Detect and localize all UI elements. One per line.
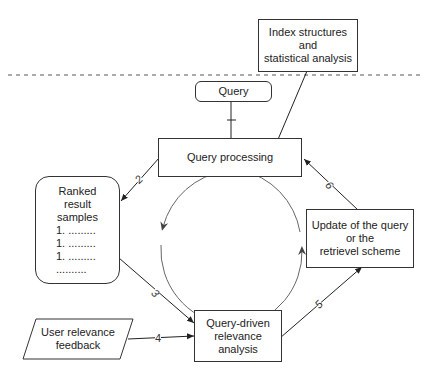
node-ranked-line-2: result bbox=[64, 198, 91, 211]
node-relevance-line-3: analysis bbox=[218, 343, 258, 356]
node-index-line-2: and bbox=[299, 39, 317, 52]
node-query-label: Query bbox=[219, 85, 249, 98]
node-index-line-3: statistical analysis bbox=[264, 52, 352, 65]
edge-label-4: 4 bbox=[155, 333, 161, 344]
node-index-structures: Index structures and statistical analysi… bbox=[258, 19, 358, 72]
node-index-line-1: Index structures bbox=[269, 26, 347, 39]
node-query: Query bbox=[195, 81, 272, 102]
cycle-arrows bbox=[161, 170, 302, 327]
ranked-item: 1. ......... bbox=[56, 237, 96, 250]
node-user-feedback: User relevance feedback bbox=[22, 318, 134, 360]
node-ranked-results: Ranked result samples 1. ......... 1. ..… bbox=[35, 176, 120, 284]
node-feedback-line-2: feedback bbox=[56, 339, 101, 352]
node-relevance-line-1: Query-driven bbox=[206, 317, 270, 330]
node-query-processing: Query processing bbox=[158, 138, 302, 177]
node-processing-label: Query processing bbox=[187, 151, 273, 164]
ranked-item: 1. ......... bbox=[56, 224, 96, 237]
node-relevance-line-2: relevance bbox=[214, 330, 262, 343]
node-update-line-3: retrievel scheme bbox=[320, 245, 401, 258]
ranked-item: .......... bbox=[56, 263, 87, 276]
node-update-query: Update of the query or the retrievel sch… bbox=[306, 209, 414, 268]
node-feedback-line-1: User relevance bbox=[41, 326, 115, 339]
node-ranked-line-1: Ranked bbox=[59, 185, 97, 198]
node-update-line-1: Update of the query bbox=[312, 219, 409, 232]
ranked-item: 1. ......... bbox=[56, 250, 96, 263]
node-update-line-2: or the bbox=[346, 232, 374, 245]
node-relevance-analysis: Query-driven relevance analysis bbox=[194, 310, 282, 362]
node-ranked-line-3: samples bbox=[57, 211, 98, 224]
